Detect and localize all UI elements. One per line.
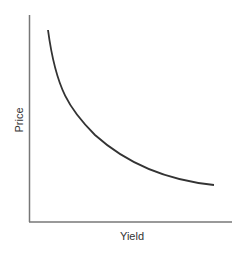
y-axis-label: Price: [13, 107, 25, 132]
chart-plot-area: [0, 0, 244, 255]
x-axis-label: Yield: [120, 230, 144, 242]
price-yield-curve: [48, 30, 214, 185]
price-yield-chart: Price Yield: [0, 0, 244, 255]
